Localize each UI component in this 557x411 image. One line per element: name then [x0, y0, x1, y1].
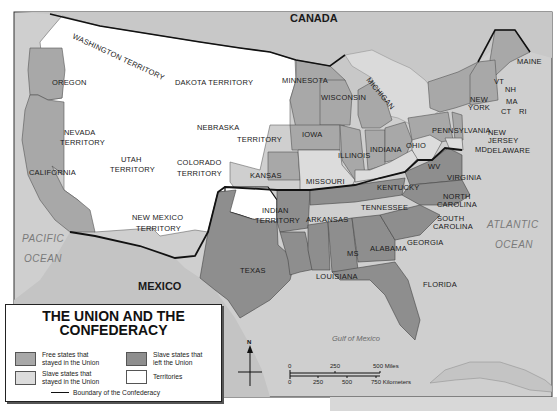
ri-label: RI — [519, 107, 527, 116]
scale-km-500: 500 — [342, 379, 352, 385]
florida-label: FLORIDA — [423, 280, 457, 289]
gulf-label: Gulf of Mexico — [332, 334, 380, 343]
georgia-label: GEORGIA — [407, 238, 443, 247]
scale-bar: 0 250 500 Miles 0 250 500 750 Kilometers — [288, 366, 408, 392]
canada-label: CANADA — [290, 12, 338, 24]
iowa-label: IOWA — [302, 130, 323, 139]
tennessee-label: TENNESSEE — [361, 203, 408, 212]
map-legend: THE UNION AND THE CONFEDERACY Free state… — [5, 304, 222, 402]
mississippi-shape — [308, 222, 330, 270]
north-label: N — [247, 339, 251, 345]
alabama-label: ALABAMA — [370, 244, 407, 253]
wv-label: WV — [428, 162, 440, 171]
legend-title: THE UNION AND THE CONFEDERACY — [6, 309, 221, 337]
wisconsin-shape — [320, 80, 352, 125]
nh-label: NH — [505, 85, 516, 94]
new-york-label-2: YORK — [468, 103, 490, 112]
utah-label-2: TERRITORY — [110, 165, 155, 174]
minnesota-label: MINNESOTA — [282, 76, 328, 85]
swatch-free-union — [15, 352, 36, 366]
pennsylvania-label: PENNSYLVANIA — [432, 126, 491, 135]
maine-label: MAINE — [517, 57, 542, 66]
wisconsin-label: WISCONSIN — [321, 93, 366, 102]
nevada-label-2: TERRITORY — [60, 138, 105, 147]
legend-title-line-2: CONFEDERACY — [6, 323, 221, 337]
boundary-label: Boundary of the Confederacy — [73, 389, 160, 397]
pacific-label-2: OCEAN — [24, 253, 62, 264]
ms-label: MS — [347, 249, 359, 258]
scale-miles-0: 0 — [288, 363, 291, 369]
swatch-slave-union — [15, 371, 36, 385]
swatch-confederate — [126, 352, 147, 366]
oregon-label: OREGON — [52, 78, 87, 87]
north-carolina-label-2: CAROLINA — [437, 200, 477, 209]
legend-item-slave-union: Slave states thatstayed in the Union — [15, 370, 99, 385]
arkansas-label: ARKANSAS — [306, 215, 348, 224]
indian-territory-label-1: INDIAN — [262, 206, 289, 215]
dakota-territory-label: DAKOTA TERRITORY — [175, 78, 253, 87]
kansas-label: KANSAS — [250, 171, 282, 180]
boundary-line-swatch — [51, 392, 69, 393]
scale-km-750: 750 Kilometers — [371, 379, 411, 385]
vt-label: VT — [494, 77, 504, 86]
kentucky-label: KENTUCKY — [377, 183, 419, 192]
colorado-label-1: COLORADO — [177, 158, 222, 167]
new-jersey-label-2: JERSEY — [488, 136, 518, 145]
md-label: MD — [475, 145, 487, 154]
colorado-label-2: TERRITORY — [177, 169, 222, 178]
scale-miles-500: 500 Miles — [373, 363, 399, 369]
mexico-label: MEXICO — [138, 280, 182, 292]
illinois-label: ILLINOIS — [338, 151, 370, 160]
utah-label-1: UTAH — [121, 155, 142, 164]
missouri-label: MISSOURI — [306, 177, 345, 186]
indiana-label: INDIANA — [370, 145, 402, 154]
union-confederacy-map: CANADA MEXICO PACIFIC OCEAN ATLANTIC OCE… — [0, 0, 557, 411]
atlantic-label-1: ATLANTIC — [486, 219, 539, 230]
ct-label: CT — [501, 107, 512, 116]
new-mexico-label-2: TERRITORY — [136, 224, 181, 233]
nebraska-label-1: NEBRASKA — [197, 123, 239, 132]
legend-item-free-union: Free states thatstayed in the Union — [15, 351, 99, 366]
legend-item-territories: Territories — [126, 370, 182, 384]
delaware-label: DELAWARE — [487, 146, 530, 155]
texas-label: TEXAS — [240, 266, 266, 275]
scale-miles-250: 250 — [330, 363, 340, 369]
indian-territory-label-2: TERRITORY — [255, 216, 300, 225]
louisiana-label: LOUISIANA — [316, 272, 358, 281]
scale-km-0: 0 — [288, 379, 291, 385]
california-label: CALIFORNIA — [29, 168, 76, 177]
atlantic-label-2: OCEAN — [495, 239, 533, 250]
legend-item-confederate: Slave states thatleft the Union — [126, 351, 202, 366]
scale-km-250: 250 — [313, 379, 323, 385]
legend-title-line-1: THE UNION AND THE — [6, 309, 221, 323]
nevada-label-1: NEVADA — [64, 128, 96, 137]
south-carolina-label-2: CAROLINA — [433, 222, 473, 231]
virginia-label: VIRGINIA — [447, 173, 482, 182]
legend-item-boundary: Boundary of the Confederacy — [51, 389, 160, 397]
ohio-label: OHIO — [406, 141, 426, 150]
new-mexico-label-1: NEW MEXICO — [132, 213, 183, 222]
nebraska-label-2: TERRITORY — [237, 135, 282, 144]
pacific-label-1: PACIFIC — [22, 233, 64, 244]
ma-label: MA — [506, 97, 518, 106]
oregon-shape — [28, 48, 65, 100]
swatch-territories — [126, 370, 147, 384]
